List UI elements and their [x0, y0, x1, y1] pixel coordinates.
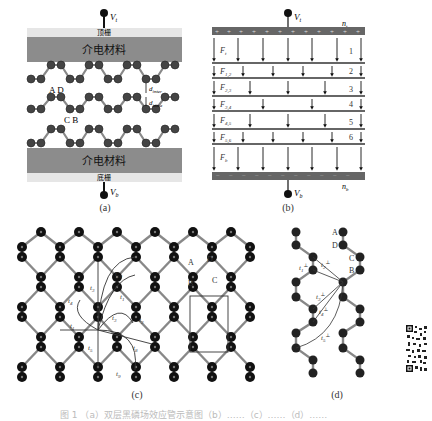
svg-text:−: −: [346, 172, 350, 180]
svg-text:+: +: [356, 28, 360, 36]
layer-number-3: 3: [349, 85, 353, 94]
bottom-voltage-label: Vb: [110, 187, 119, 198]
layer-number-5: 5: [349, 118, 353, 127]
panel-c-label: (c): [122, 389, 152, 400]
field-arrows: [214, 38, 361, 169]
field-label-34: F3,4: [219, 100, 232, 111]
field-label-56: F5,6: [219, 133, 232, 144]
svg-text:−: −: [294, 172, 298, 180]
layer-number-1: 1: [349, 47, 353, 56]
svg-text:+: +: [227, 28, 231, 36]
figure-caption: 图 1 （a）双层黑磷场效应管示意图（b）……（c）……（d）……: [60, 408, 380, 421]
svg-text:−: −: [333, 172, 337, 180]
svg-text:−: −: [281, 172, 285, 180]
site-label-d: D: [207, 255, 213, 264]
site-label-a: A: [188, 258, 194, 267]
svg-text:t8: t8: [133, 344, 138, 353]
qr-code: [406, 325, 428, 373]
site-label-b: B: [188, 279, 193, 288]
svg-text:+: +: [304, 28, 308, 36]
svg-text:+: +: [343, 28, 347, 36]
svg-text:t2: t2: [139, 316, 144, 325]
svg-text:+: +: [317, 28, 321, 36]
bottom-voltage-label-b: Vb: [294, 188, 303, 199]
site-labels-cb: C B: [64, 115, 78, 125]
layer-number-4: 4: [349, 100, 353, 109]
panel-a-label: (a): [90, 202, 120, 213]
svg-text:−: −: [255, 172, 259, 180]
top-dielectric-label: 介电材料: [82, 43, 126, 57]
svg-text:t3⊥: t3⊥: [316, 292, 325, 302]
field-label-b: Fb: [219, 153, 228, 163]
field-label-45: F4,5: [219, 116, 232, 127]
panel-c-lattice-top-view: t1 t3 t4 t1 t3 t2 t5 t8 t9 t10 A D B C: [0, 220, 265, 390]
panel-b-field-diagram: Vt nt ++++++++++++ Ft F1,2 F2,3 F3,4 F4,…: [212, 0, 372, 215]
bottom-gate-label: 底栅: [97, 173, 111, 182]
svg-text:+: +: [239, 28, 243, 36]
svg-text:+: +: [330, 28, 334, 36]
site-label-b-d: B: [349, 266, 354, 275]
svg-text:−: −: [216, 172, 220, 180]
site-labels-ad: A D: [49, 85, 64, 95]
field-label-23: F2,3: [219, 83, 232, 94]
panel-b-label: (b): [273, 202, 303, 213]
svg-text:t3: t3: [112, 314, 117, 323]
top-gate-label: 顶栅: [97, 28, 111, 37]
svg-text:t1: t1: [70, 322, 74, 331]
svg-text:t1⊥: t1⊥: [299, 263, 308, 273]
layer-lines: [212, 63, 365, 144]
svg-text:−: −: [242, 172, 246, 180]
d-inter-label: dinter: [149, 85, 162, 94]
svg-text:t5: t5: [88, 344, 93, 353]
field-label-t: Ft: [219, 46, 227, 56]
bottom-charge-label: nb: [342, 182, 349, 192]
panel-a-device-schematic: Vt 顶栅 介电材料 A D C B dinter dintra 介电材料 底栅: [0, 0, 212, 215]
field-label-12: F1,2: [219, 67, 232, 78]
svg-text:−: −: [229, 172, 233, 180]
site-label-c-d: C: [349, 254, 354, 263]
panel-d-interlayer-hopping: t1⊥ t2⊥ t3⊥ t4⊥ t5⊥ A D C B: [285, 225, 380, 385]
svg-text:−: −: [320, 172, 324, 180]
svg-text:−: −: [307, 172, 311, 180]
layer-number-2: 2: [349, 67, 353, 76]
top-voltage-label-b: Vt: [294, 12, 302, 23]
svg-text:t3: t3: [90, 284, 95, 293]
site-label-d-d: D: [332, 241, 338, 250]
svg-text:t4⊥: t4⊥: [319, 307, 328, 317]
svg-text:+: +: [252, 28, 256, 36]
svg-text:t5⊥: t5⊥: [321, 333, 330, 343]
svg-text:t2⊥: t2⊥: [321, 260, 330, 270]
svg-text:−: −: [268, 172, 272, 180]
bottom-charge-plate: [212, 172, 365, 180]
panel-d-label: (d): [322, 389, 352, 400]
site-label-c: C: [212, 276, 217, 285]
svg-text:t9: t9: [116, 370, 121, 379]
layer-number-6: 6: [349, 133, 353, 142]
bottom-dielectric-label: 介电材料: [82, 154, 126, 168]
d-intra-label: dintra: [149, 99, 163, 108]
svg-text:+: +: [265, 28, 269, 36]
svg-text:+: +: [291, 28, 295, 36]
svg-text:+: +: [215, 28, 219, 36]
top-voltage-label: Vt: [110, 12, 118, 23]
site-label-a-d: A: [332, 228, 338, 237]
svg-text:t4: t4: [68, 297, 73, 306]
svg-text:+: +: [278, 28, 282, 36]
